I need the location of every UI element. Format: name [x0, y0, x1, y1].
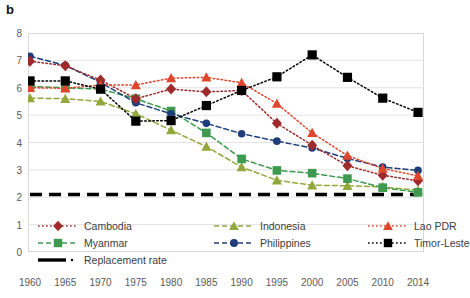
data-point-marker — [237, 162, 247, 171]
legend-swatch-triangle-icon — [212, 220, 256, 232]
legend-label: Indonesia — [260, 220, 306, 232]
data-point-marker — [414, 188, 423, 197]
gridlines — [28, 60, 424, 224]
legend-swatch-none-icon — [36, 254, 80, 266]
legend-label: Timor-Leste — [414, 237, 470, 249]
series-line — [30, 86, 418, 192]
series-line — [30, 98, 418, 190]
x-axis-tick-label: 1995 — [260, 277, 294, 288]
data-point-marker — [273, 166, 282, 175]
x-axis-tick-label: 1990 — [225, 277, 259, 288]
x-axis-tick-label: 1965 — [48, 277, 82, 288]
data-point-marker — [53, 221, 63, 232]
x-axis-tick-label: 1985 — [189, 277, 223, 288]
legend-swatch-square-icon — [36, 237, 80, 249]
data-point-marker — [202, 129, 211, 138]
x-axis-tick-label: 1975 — [119, 277, 153, 288]
data-point-marker — [166, 116, 175, 125]
legend-item-myanmar[interactable]: Myanmar — [36, 237, 128, 249]
legend-item-philippines[interactable]: Philippines — [212, 237, 311, 249]
y-axis-tick-label: 3 — [4, 164, 22, 175]
legend-label: Lao PDR — [414, 220, 457, 232]
legend-swatch-circle-icon — [212, 237, 256, 249]
series-line — [30, 56, 418, 170]
data-point-marker — [308, 50, 317, 59]
x-axis-tick-label: 2014 — [401, 277, 435, 288]
data-point-marker — [343, 73, 352, 82]
data-point-marker — [343, 174, 352, 183]
x-axis-tick-label: 2005 — [330, 277, 364, 288]
data-point-marker — [61, 76, 70, 85]
data-point-marker — [202, 101, 211, 110]
x-axis-tick-label: 2000 — [295, 277, 329, 288]
x-axis-tick-label: 1980 — [154, 277, 188, 288]
series-lao-pdr — [25, 72, 423, 180]
data-point-marker — [272, 72, 281, 81]
legend-label: Philippines — [260, 237, 311, 249]
data-point-marker — [96, 85, 105, 94]
data-point-marker — [237, 155, 246, 164]
data-point-marker — [203, 120, 211, 128]
data-point-marker — [238, 130, 246, 138]
y-axis-tick-label: 2 — [4, 192, 22, 203]
data-point-marker — [378, 94, 387, 103]
data-point-marker — [272, 175, 282, 184]
data-point-marker — [131, 117, 140, 126]
legend-item-lao-pdr[interactable]: Lao PDR — [366, 220, 457, 232]
legend-swatch-triangle-icon — [366, 220, 410, 232]
chart-legend: CambodiaIndonesiaLao PDRMyanmarPhilippin… — [36, 220, 428, 270]
y-axis-tick-label: 6 — [4, 82, 22, 93]
data-point-marker — [307, 128, 317, 137]
data-point-marker — [54, 239, 62, 247]
series-line — [30, 61, 418, 181]
legend-swatch-diamond-icon — [36, 220, 80, 232]
series-philippines — [26, 52, 422, 174]
y-axis-tick-label: 7 — [4, 55, 22, 66]
legend-label: Cambodia — [84, 220, 132, 232]
data-point-marker — [378, 183, 387, 192]
data-point-marker — [342, 151, 352, 160]
data-point-marker — [272, 99, 282, 108]
y-axis-tick-label: 1 — [4, 219, 22, 230]
x-axis-tick-label: 1960 — [13, 277, 47, 288]
legend-label: Myanmar — [84, 237, 128, 249]
data-point-marker — [237, 86, 246, 95]
y-axis-tick-label: 5 — [4, 110, 22, 121]
data-point-marker — [230, 239, 238, 247]
data-point-marker — [166, 125, 176, 134]
x-axis-tick-label: 1970 — [84, 277, 118, 288]
y-axis-tick-label: 4 — [4, 137, 22, 148]
legend-label: Replacement rate — [84, 254, 167, 266]
legend-item-cambodia[interactable]: Cambodia — [36, 220, 132, 232]
x-axis-tick-label: 2010 — [366, 277, 400, 288]
data-point-marker — [413, 108, 422, 117]
data-point-marker — [384, 239, 392, 247]
y-axis-tick-label: 0 — [4, 247, 22, 258]
y-axis-tick-label: 8 — [4, 28, 22, 39]
data-point-marker — [273, 137, 281, 145]
data-point-marker — [60, 60, 70, 71]
data-point-marker — [25, 76, 34, 85]
legend-item-timor-leste[interactable]: Timor-Leste — [366, 237, 470, 249]
series-indonesia — [25, 93, 423, 194]
legend-item-indonesia[interactable]: Indonesia — [212, 220, 306, 232]
series-layer — [25, 50, 423, 196]
data-point-marker — [166, 84, 176, 95]
legend-item-replacement-rate[interactable]: Replacement rate — [36, 254, 167, 266]
data-point-marker — [308, 169, 317, 178]
legend-swatch-square-icon — [366, 237, 410, 249]
series-myanmar — [26, 82, 423, 197]
